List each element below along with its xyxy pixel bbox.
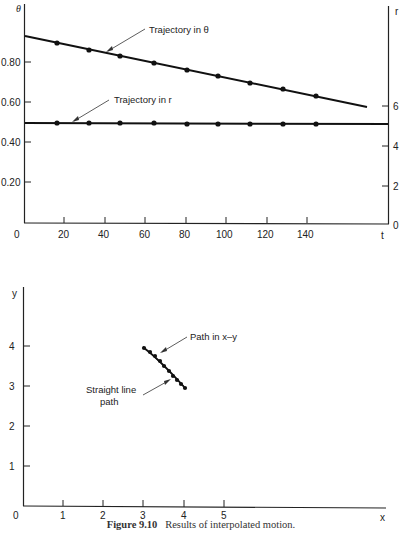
straight-line-annotation-label-2: path [100,396,119,407]
top-chart: θ 0.80 0.60 0.40 0.20 0 20 40 60 80 100 … [1,3,399,241]
theta-annotation: Trajectory in θ [106,24,209,52]
r-annotation-label: Trajectory in r [114,94,172,105]
r-axis-label: r [395,6,399,17]
theta-tick-label: 0.20 [1,177,21,188]
r-ticks [382,106,388,186]
y-tick-label: 4 [9,341,15,352]
xy-path [142,346,187,390]
origin-label: 0 [14,229,20,240]
theta-tick-label: 0.80 [1,57,21,68]
bottom-chart: y 4 3 2 1 0 1 2 3 4 5 x [9,287,386,523]
t-tick-label: 80 [179,229,191,240]
y-tick-label: 1 [9,461,15,472]
theta-annotation-label: Trajectory in θ [149,24,209,35]
straight-line-annotation-label-1: Straight line [86,384,136,395]
xy-path-annotation-label: Path in x–y [190,331,237,342]
t-ticks [64,217,307,223]
t-axis [24,223,389,224]
r-annotation: Trajectory in r [72,94,172,122]
t-tick-label: 60 [139,229,151,240]
caption-label: Figure 9.10 [107,519,158,530]
x-axis [23,506,386,508]
theta-trajectory [25,36,367,107]
caption-text: Results of interpolated motion. [165,519,295,530]
t-tick-label: 100 [216,229,233,240]
theta-axis-label: θ [16,3,21,14]
t-tick-label: 120 [257,229,274,240]
figure: θ 0.80 0.60 0.40 0.20 0 20 40 60 80 100 … [0,0,402,535]
theta-ticks [25,62,31,182]
xy-path-annotation: Path in x–y [160,331,237,353]
t-axis-label: t [381,230,384,241]
y-tick-label: 3 [9,381,15,392]
r-tick-label: 2 [393,181,399,192]
r-tick-label: 0 [393,220,399,231]
r-tick-label: 4 [393,141,399,152]
y-tick-label: 2 [9,421,15,432]
theta-tick-label: 0.60 [1,97,21,108]
t-tick-label: 20 [58,229,70,240]
y-ticks [24,346,30,466]
theta-tick-label: 0.40 [1,137,21,148]
r-tick-label: 6 [393,101,399,112]
r-trajectory [25,120,388,126]
t-tick-label: 140 [297,229,314,240]
y-axis-label: y [12,288,17,299]
figure-caption: Figure 9.10 Results of interpolated moti… [0,519,402,530]
t-tick-label: 40 [98,229,110,240]
straight-line-annotation: Straight line path [86,379,171,407]
